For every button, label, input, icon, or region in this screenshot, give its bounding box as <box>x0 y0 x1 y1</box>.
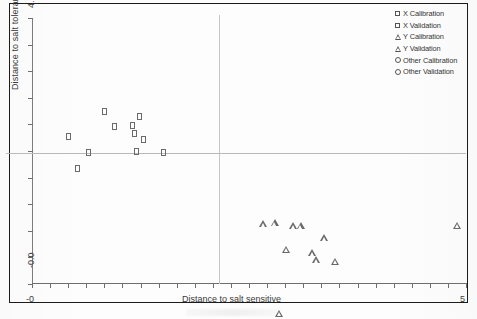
legend-item[interactable]: X Calibration <box>392 8 472 20</box>
x-axis-tick <box>177 283 178 288</box>
square-marker-icon <box>392 23 403 28</box>
x-axis-label: Distance to salt sensitive <box>182 294 281 304</box>
data-point-square <box>134 148 139 155</box>
legend-item[interactable]: Other Calibration <box>392 54 472 66</box>
horizontal-reference-line <box>6 153 466 154</box>
data-point-triangle <box>282 246 290 253</box>
y-axis-tick <box>28 18 33 19</box>
circle-marker-icon <box>392 57 403 63</box>
legend-item[interactable]: X Validation <box>392 20 472 32</box>
data-point-triangle <box>289 222 297 229</box>
legend-item[interactable]: Y Calibration <box>392 31 472 43</box>
x-axis-tick <box>430 283 431 288</box>
y-axis-label: Distance to salt tolerant <box>10 0 20 90</box>
data-point-square <box>86 149 91 156</box>
y-axis-tick <box>28 98 33 99</box>
x-axis-tick <box>285 283 286 288</box>
data-point-square <box>75 165 80 172</box>
data-point-triangle <box>308 249 316 256</box>
scan-artifact <box>186 309 282 316</box>
legend-item[interactable]: Other Validation <box>392 66 472 78</box>
triangle-marker-icon <box>392 34 403 40</box>
legend-item-label: X Calibration <box>403 9 444 18</box>
y-axis-tick <box>28 178 33 179</box>
y-axis-tick <box>28 231 33 232</box>
x-axis-min-tick-label: -0 <box>26 294 34 304</box>
x-axis-tick <box>448 283 449 288</box>
data-point-square <box>66 133 71 140</box>
x-axis-tick <box>86 283 87 288</box>
y-axis-max-tick-label: 4.1 <box>26 0 36 8</box>
legend-item-label: Other Calibration <box>403 56 457 65</box>
x-axis-tick <box>267 283 268 288</box>
x-axis-tick <box>50 283 51 288</box>
x-axis-tick <box>159 283 160 288</box>
x-axis-tick <box>376 283 377 288</box>
data-point-triangle <box>271 219 279 226</box>
x-axis-tick <box>394 283 395 288</box>
legend-item[interactable]: Y Validation <box>392 43 472 55</box>
y-axis-tick <box>28 151 33 152</box>
x-axis-tick <box>213 283 214 288</box>
x-axis-tick <box>195 283 196 288</box>
vertical-reference-line <box>219 15 220 284</box>
x-axis-tick <box>412 283 413 288</box>
y-axis-tick <box>28 71 33 72</box>
circle-marker-icon <box>392 69 403 75</box>
legend-item-label: X Validation <box>403 21 441 30</box>
data-point-triangle <box>259 220 267 227</box>
x-axis-tick <box>122 283 123 288</box>
data-point-square <box>132 130 137 137</box>
x-axis-tick <box>339 283 340 288</box>
data-point-square <box>130 122 135 129</box>
data-point-triangle <box>297 222 305 229</box>
legend-item-label: Y Validation <box>403 44 441 53</box>
y-axis-tick <box>28 204 33 205</box>
data-point-triangle <box>453 222 461 229</box>
data-point-triangle <box>312 256 320 263</box>
legend-item-label: Other Validation <box>403 67 454 76</box>
x-axis-tick <box>231 283 232 288</box>
legend-item-label: Y Calibration <box>403 32 444 41</box>
triangle-marker-icon <box>392 46 403 52</box>
data-point-square <box>112 123 117 130</box>
y-axis-min-tick-label: -0.0 <box>26 252 36 268</box>
x-axis-tick <box>32 283 33 288</box>
y-axis-tick <box>28 124 33 125</box>
data-point-square <box>161 149 166 156</box>
x-axis-tick <box>141 283 142 288</box>
data-point-square <box>102 108 107 115</box>
legend: X CalibrationX ValidationY CalibrationY … <box>392 8 472 78</box>
data-point-triangle <box>320 234 328 241</box>
data-point-square <box>141 136 146 143</box>
data-point-square <box>137 113 142 120</box>
square-marker-icon <box>392 11 403 16</box>
x-axis-max-tick-label: 5 <box>460 294 465 304</box>
figure-screenshot: Distance to salt tolerant Distance to sa… <box>0 0 477 319</box>
data-point-triangle <box>331 258 339 265</box>
x-axis-tick <box>249 283 250 288</box>
x-axis-tick <box>68 283 69 288</box>
x-axis-tick <box>358 283 359 288</box>
x-axis-tick <box>466 283 467 288</box>
x-axis-tick <box>321 283 322 288</box>
y-axis-tick <box>28 45 33 46</box>
x-axis-tick <box>303 283 304 288</box>
x-axis-tick <box>104 283 105 288</box>
